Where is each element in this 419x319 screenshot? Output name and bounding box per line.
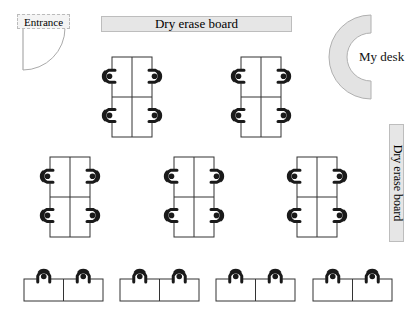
front-pair-4 (313, 270, 392, 301)
entrance-label: Entrance (17, 14, 70, 29)
dry-erase-board-right: Dry erase board (389, 124, 404, 242)
entrance-door (23, 28, 65, 70)
front-pair-1 (24, 270, 103, 301)
my-desk-label: My desk (359, 50, 404, 63)
board-right-label: Dry erase board (389, 145, 404, 222)
cluster-top-right (232, 57, 289, 137)
cluster-middle-left (41, 157, 98, 237)
entrance-label-text: Entrance (24, 16, 63, 28)
front-pair-2 (120, 270, 199, 301)
classroom-floor-plan (0, 0, 419, 319)
door-swing-arc (23, 28, 65, 70)
cluster-middle-right (288, 157, 345, 237)
front-pair-3 (216, 270, 295, 301)
dry-erase-board-top: Dry erase board (101, 16, 292, 32)
board-top-label: Dry erase board (155, 16, 238, 32)
front-desk-row (24, 270, 392, 301)
cluster-middle-center (165, 157, 222, 237)
cluster-top-left (103, 57, 160, 137)
desk-clusters (41, 57, 345, 237)
